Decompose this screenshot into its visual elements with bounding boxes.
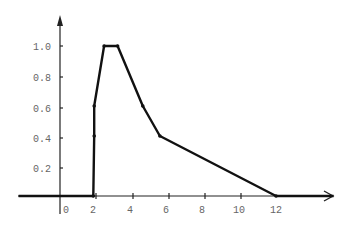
y-tick-label: 0.4	[33, 134, 51, 145]
x-tick-label: 10	[233, 205, 245, 216]
x-tick-label: 0	[63, 205, 69, 216]
series-line	[19, 46, 334, 196]
x-tick-label: 6	[163, 205, 169, 216]
x-tick-label: 2	[90, 205, 96, 216]
y-tick-label: 0.8	[33, 73, 51, 84]
x-tick-label: 12	[270, 205, 282, 216]
chart-canvas: 1.0 0.8 0.6 0.4 0.2 0 2 4 6 8 10 12	[0, 0, 350, 233]
data-point-marker	[158, 134, 162, 138]
y-tick-label: 0.2	[33, 164, 51, 175]
y-tick-label: 1.0	[33, 42, 51, 53]
data-point-marker	[92, 194, 96, 198]
y-tick-label: 0.6	[33, 104, 51, 115]
data-point-marker	[92, 134, 96, 138]
y-axis-arrow-icon	[57, 15, 63, 26]
data-point-marker	[141, 104, 145, 108]
data-point-marker	[92, 104, 96, 108]
data-point-marker	[102, 44, 106, 48]
x-tick-label: 8	[199, 205, 205, 216]
data-point-marker	[116, 44, 120, 48]
x-tick-label: 4	[127, 205, 133, 216]
data-point-marker	[274, 194, 278, 198]
series-markers	[92, 44, 278, 198]
